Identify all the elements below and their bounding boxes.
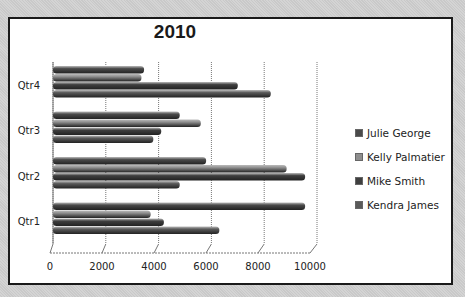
gridline-floor: [310, 244, 317, 253]
legend-swatch-icon: [355, 153, 363, 161]
bar-julie-george-qtr4: [53, 66, 144, 74]
legend-label: Kendra James: [367, 199, 439, 211]
bar-mike-smith-qtr1: [53, 219, 164, 227]
y-category-label: Qtr3: [18, 125, 40, 136]
legend-swatch-icon: [355, 201, 363, 209]
gridline-floor: [102, 244, 106, 253]
x-tick-label: 4000: [141, 261, 166, 272]
legend-swatch-icon: [355, 129, 363, 137]
chart-frame: 2010 0200040006000800010000Qtr1Qtr2Qtr3Q…: [8, 17, 453, 285]
legend-item: Julie George: [355, 121, 445, 145]
y-category-label: Qtr4: [18, 80, 40, 91]
legend-swatch-icon: [355, 177, 363, 185]
bar-mike-smith-qtr2: [53, 173, 305, 181]
bar-kelly-palmatier-qtr1: [53, 211, 151, 219]
legend-label: Mike Smith: [367, 175, 425, 187]
bar-kendra-james-qtr4: [53, 90, 271, 98]
bar-mike-smith-qtr4: [53, 82, 238, 90]
x-tick-label: 6000: [193, 261, 218, 272]
x-tick-label: 10000: [294, 261, 326, 272]
gridline-floor: [50, 244, 53, 253]
y-category-label: Qtr2: [18, 171, 40, 182]
x-tick-label: 0: [47, 261, 53, 272]
x-tick-label: 2000: [89, 261, 114, 272]
bar-mike-smith-qtr3: [53, 128, 161, 136]
bar-kelly-palmatier-qtr2: [53, 165, 287, 173]
x-tick-label: 8000: [245, 261, 270, 272]
bar-kendra-james-qtr2: [53, 181, 180, 189]
legend-label: Kelly Palmatier: [367, 151, 445, 163]
legend-label: Julie George: [367, 127, 431, 139]
gridline-floor: [258, 244, 264, 253]
bar-julie-george-qtr3: [53, 112, 180, 120]
gridline-floor: [154, 244, 159, 253]
legend-item: Mike Smith: [355, 169, 445, 193]
bar-kendra-james-qtr3: [53, 136, 153, 144]
legend-item: Kendra James: [355, 193, 445, 217]
gridline-floor: [206, 244, 211, 253]
bar-kendra-james-qtr1: [53, 227, 219, 235]
y-category-label: Qtr1: [18, 216, 40, 227]
legend: Julie GeorgeKelly PalmatierMike SmithKen…: [355, 121, 445, 217]
legend-item: Kelly Palmatier: [355, 145, 445, 169]
bar-julie-george-qtr1: [53, 203, 305, 211]
bar-kelly-palmatier-qtr3: [53, 120, 201, 128]
bar-julie-george-qtr2: [53, 157, 206, 165]
bar-kelly-palmatier-qtr4: [53, 74, 141, 82]
